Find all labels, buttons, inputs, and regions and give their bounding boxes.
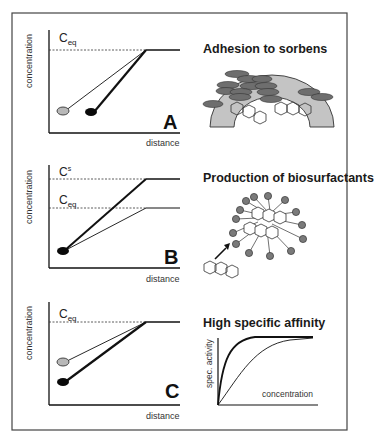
panel-c-black-cell bbox=[57, 378, 69, 386]
panel-a-x-axis-label: distance bbox=[146, 138, 180, 148]
panel-a-y-axis-label: concentration bbox=[24, 34, 34, 88]
sorbent-illustration bbox=[203, 71, 334, 128]
panel-a-black-gradient-line bbox=[94, 50, 146, 112]
panel-b-black-cell bbox=[57, 247, 69, 255]
panel-c-black-gradient-line bbox=[65, 322, 146, 382]
panel-a-gray-gradient-line bbox=[65, 50, 146, 111]
panel-a-ceq-label: Ceq bbox=[59, 31, 77, 47]
panel-b-mechanism-title: Production of biosurfactants bbox=[203, 171, 374, 185]
panel-a-black-cell bbox=[85, 108, 97, 116]
figure-frame bbox=[12, 13, 347, 430]
pah-molecules-solubilized bbox=[244, 207, 286, 239]
panel-b-letter: B bbox=[164, 246, 178, 269]
panel-c-gray-cell bbox=[57, 358, 69, 366]
panel-a-mechanism-title: Adhesion to sorbens bbox=[203, 42, 327, 56]
panel-c-mechanism-title: High specific affinity bbox=[203, 316, 325, 330]
panel-b-x-axis-label: distance bbox=[146, 274, 180, 284]
biosurfactant-illustration bbox=[204, 192, 307, 278]
panel-b-plot bbox=[49, 165, 180, 268]
free-pah-molecule bbox=[204, 261, 238, 278]
panel-c-gray-gradient-line bbox=[65, 322, 146, 362]
panel-b-thick-gradient-line bbox=[64, 179, 146, 251]
panel-c-x-axis-label: distance bbox=[146, 411, 180, 421]
surfactant-heads bbox=[229, 192, 306, 259]
panel-b-cs-label: Cs bbox=[59, 165, 71, 179]
pah-molecules-sorbed bbox=[231, 102, 311, 124]
inset-x-axis-label: concentration bbox=[262, 389, 313, 399]
panel-a-letter: A bbox=[163, 111, 177, 134]
panel-b-y-axis-label: concentration bbox=[24, 170, 34, 224]
panel-c-y-axis-label: concentration bbox=[24, 306, 34, 360]
uptake-arrow bbox=[215, 243, 230, 259]
panel-c-ceq-label: Ceq bbox=[59, 307, 77, 323]
panel-a-gray-cell bbox=[57, 107, 69, 115]
surfactant-tails bbox=[233, 196, 303, 256]
inset-y-axis-label: spec. activity bbox=[204, 339, 214, 388]
panel-c-letter: C bbox=[165, 380, 179, 403]
panel-b-ceq-label: Ceq bbox=[59, 193, 77, 209]
